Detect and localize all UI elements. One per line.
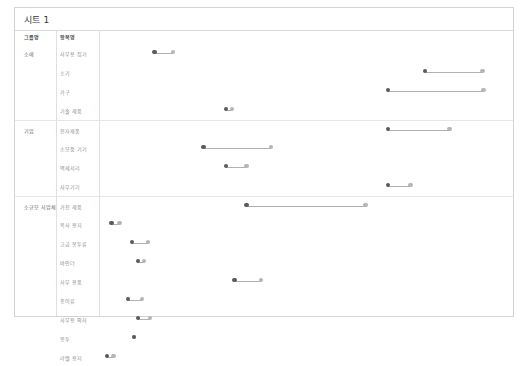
row-plot-area bbox=[99, 310, 509, 329]
dumbbell-mark[interactable] bbox=[99, 329, 509, 348]
row-plot-area bbox=[99, 63, 509, 82]
dumbbell-mark[interactable] bbox=[99, 234, 509, 253]
dumbbell-connector bbox=[154, 53, 172, 54]
table-row[interactable]: 사무기기 bbox=[15, 177, 513, 196]
table-row[interactable]: 복사 용지 bbox=[15, 215, 513, 234]
row-plot-area bbox=[99, 139, 509, 158]
chart-grid: 그룹명 항목명 소매사무용 집기소기가구기술 제품기업전자제품소모품 기기액세서… bbox=[15, 31, 513, 316]
row-plot-area bbox=[99, 177, 509, 196]
dumbbell-connector bbox=[247, 206, 366, 207]
dumbbell-mark[interactable] bbox=[99, 82, 509, 101]
dumbbell-mark[interactable] bbox=[99, 44, 509, 63]
row-plot-area bbox=[99, 329, 509, 348]
row-plot-area bbox=[99, 197, 509, 216]
row-item-label: 바인더 bbox=[60, 259, 75, 266]
table-row[interactable]: 기업전자제품 bbox=[15, 120, 513, 140]
table-row[interactable]: 소매사무용 집기 bbox=[15, 44, 513, 63]
row-item-label: 소모품 기기 bbox=[60, 145, 87, 152]
row-item-label: 사무용 집기 bbox=[60, 50, 87, 57]
dumbbell-mark[interactable] bbox=[99, 348, 509, 366]
dumbbell-dot-end[interactable] bbox=[142, 259, 146, 263]
row-plot-area bbox=[99, 291, 509, 310]
dumbbell-connector bbox=[234, 281, 261, 282]
dumbbell-dot-end[interactable] bbox=[259, 278, 263, 282]
row-item-label: 사무 용품 bbox=[60, 278, 82, 285]
table-row[interactable]: 소기 bbox=[15, 63, 513, 82]
table-row[interactable]: 종이류 bbox=[15, 291, 513, 310]
row-plot-area bbox=[99, 121, 509, 140]
row-item-label: 사무기기 bbox=[60, 183, 80, 190]
table-row[interactable]: 고급 봉투류 bbox=[15, 234, 513, 253]
row-item-label: 가구 bbox=[60, 88, 70, 95]
row-item-label: 라벨 용지 bbox=[60, 354, 82, 361]
table-row[interactable]: 가구 bbox=[15, 82, 513, 101]
dumbbell-dot-start[interactable] bbox=[152, 50, 156, 54]
dumbbell-mark[interactable] bbox=[99, 291, 509, 310]
dumbbell-mark[interactable] bbox=[99, 63, 509, 82]
header-row: 그룹명 항목명 bbox=[15, 31, 513, 44]
table-row[interactable]: 사무 용품 bbox=[15, 272, 513, 291]
table-row[interactable]: 액세서리 bbox=[15, 158, 513, 177]
table-row[interactable]: 라벨 용지 bbox=[15, 348, 513, 366]
dumbbell-mark[interactable] bbox=[99, 139, 509, 158]
row-item-label: 기술 제품 bbox=[60, 107, 82, 114]
table-row[interactable]: 소모품 기기 bbox=[15, 139, 513, 158]
dumbbell-dot-end[interactable] bbox=[408, 183, 412, 187]
sheet-title: 시트 1 bbox=[24, 13, 49, 26]
table-row[interactable]: 기술 제품 bbox=[15, 101, 513, 120]
dumbbell-dot-end[interactable] bbox=[244, 164, 248, 168]
table-row[interactable]: 사무용 의자 bbox=[15, 310, 513, 329]
table-row[interactable]: 봉투 bbox=[15, 329, 513, 348]
dumbbell-dot-end[interactable] bbox=[146, 240, 150, 244]
row-item-label: 전자제품 bbox=[60, 127, 80, 134]
row-item-label: 소기 bbox=[60, 69, 70, 76]
row-item-label: 가전 제품 bbox=[60, 203, 82, 210]
row-item-label: 종이류 bbox=[60, 297, 75, 304]
row-item-label: 사무용 의자 bbox=[60, 316, 87, 323]
dumbbell-connector bbox=[388, 130, 450, 131]
row-item-label: 액세서리 bbox=[60, 164, 80, 171]
dumbbell-mark[interactable] bbox=[99, 121, 509, 140]
row-plot-area bbox=[99, 158, 509, 177]
dumbbell-dot-start[interactable] bbox=[109, 221, 113, 225]
table-row[interactable]: 소규모 사업체가전 제품 bbox=[15, 196, 513, 216]
dumbbell-dot-end[interactable] bbox=[447, 127, 451, 131]
row-item-label: 고급 봉투류 bbox=[60, 240, 87, 247]
dumbbell-dot-start[interactable] bbox=[132, 335, 136, 339]
row-plot-area bbox=[99, 272, 509, 291]
dumbbell-mark[interactable] bbox=[99, 101, 509, 120]
dumbbell-mark[interactable] bbox=[99, 272, 509, 291]
dumbbell-dot-end[interactable] bbox=[148, 316, 152, 320]
row-group-label: 소매 bbox=[24, 50, 34, 57]
dumbbell-mark[interactable] bbox=[99, 158, 509, 177]
row-plot-area bbox=[99, 44, 509, 63]
visualization-frame: 시트 1 그룹명 항목명 소매사무용 집기소기가구기술 제품기업전자제품소모품 … bbox=[14, 7, 514, 317]
row-group-label: 기업 bbox=[24, 127, 34, 134]
chart-rows: 소매사무용 집기소기가구기술 제품기업전자제품소모품 기기액세서리사무기기소규모… bbox=[15, 44, 513, 316]
dumbbell-dot-end[interactable] bbox=[363, 203, 367, 207]
dumbbell-connector bbox=[204, 148, 272, 149]
dumbbell-dot-end[interactable] bbox=[171, 50, 175, 54]
dumbbell-mark[interactable] bbox=[99, 215, 509, 234]
dumbbell-mark[interactable] bbox=[99, 253, 509, 272]
row-plot-area bbox=[99, 348, 509, 366]
dumbbell-dot-end[interactable] bbox=[269, 145, 273, 149]
dumbbell-connector bbox=[425, 72, 482, 73]
row-item-label: 복사 용지 bbox=[60, 221, 82, 228]
row-plot-area bbox=[99, 215, 509, 234]
dumbbell-dot-end[interactable] bbox=[117, 221, 121, 225]
row-group-label: 소규모 사업체 bbox=[24, 203, 56, 210]
dumbbell-dot-end[interactable] bbox=[111, 354, 115, 358]
table-row[interactable]: 바인더 bbox=[15, 253, 513, 272]
dumbbell-dot-start[interactable] bbox=[232, 278, 236, 282]
dumbbell-mark[interactable] bbox=[99, 310, 509, 329]
dumbbell-dot-end[interactable] bbox=[230, 107, 234, 111]
row-plot-area bbox=[99, 234, 509, 253]
dumbbell-mark[interactable] bbox=[99, 197, 509, 216]
dumbbell-connector bbox=[388, 91, 484, 92]
dumbbell-dot-end[interactable] bbox=[140, 297, 144, 301]
row-plot-area bbox=[99, 82, 509, 101]
dumbbell-mark[interactable] bbox=[99, 177, 509, 196]
dumbbell-dot-end[interactable] bbox=[481, 88, 485, 92]
dumbbell-dot-end[interactable] bbox=[480, 69, 484, 73]
